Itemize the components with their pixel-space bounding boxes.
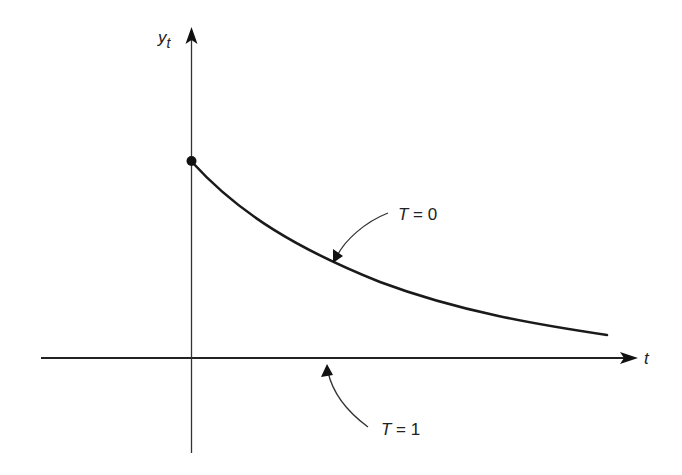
t0-pointer-arrow bbox=[337, 213, 388, 256]
initial-point-dot bbox=[187, 156, 197, 166]
decay-curve bbox=[192, 162, 607, 335]
t1-pointer-arrow bbox=[328, 372, 368, 427]
t0-label: T = 0 bbox=[398, 205, 437, 224]
diagram-canvas: t yt T = 0 T = 1 bbox=[0, 0, 682, 475]
t1-label: T = 1 bbox=[381, 420, 420, 439]
y-axis-label: yt bbox=[157, 28, 172, 51]
x-axis-label: t bbox=[644, 349, 650, 368]
t0-arrowhead-icon bbox=[333, 249, 343, 263]
t1-arrowhead-icon bbox=[321, 364, 333, 377]
